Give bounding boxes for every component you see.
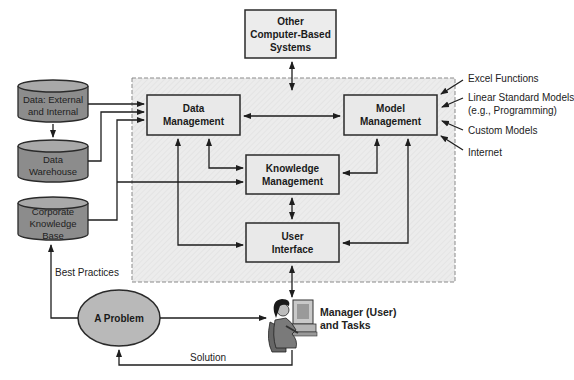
corporate-kb-line1: Corporate (32, 206, 74, 217)
person-at-computer-icon (268, 299, 317, 352)
manager-line2: and Tasks (320, 319, 371, 331)
other-systems-line1: Other (277, 16, 304, 27)
excel-functions-label: Excel Functions (468, 72, 539, 85)
other-systems-line3: Systems (270, 42, 311, 53)
corporate-kb-label: CorporateKnowledgeBase (18, 207, 88, 241)
data-management-line1: Data (183, 103, 205, 114)
linear-models-sub-label: (e.g., Programming) (468, 104, 557, 117)
other-systems-label: OtherComputer-BasedSystems (245, 10, 336, 58)
corporate-kb-line3: Base (42, 230, 64, 241)
data-warehouse-line2: Warehouse (29, 166, 77, 177)
internet-label: Internet (468, 146, 502, 159)
data-warehouse-label: DataWarehouse (18, 152, 88, 180)
model-management-label: ModelManagement (344, 95, 437, 135)
custom-models-label: Custom Models (468, 124, 537, 137)
user-interface-label: UserInterface (246, 223, 339, 262)
data-external-line1: Data: External (23, 94, 83, 105)
knowledge-management-line1: Knowledge (266, 163, 319, 174)
other-systems-line2: Computer-Based (250, 29, 331, 40)
data-external-label: Data: Externaland Internal (18, 92, 88, 120)
manager-line1: Manager (User) (320, 306, 396, 318)
data-management-label: DataManagement (147, 95, 240, 135)
model-management-line1: Model (376, 103, 405, 114)
best-practices-label: Best Practices (55, 266, 119, 279)
model-management-line2: Management (360, 116, 421, 127)
data-external-line2: and Internal (28, 106, 78, 117)
data-warehouse-line1: Data (43, 154, 63, 165)
knowledge-management-label: KnowledgeManagement (246, 155, 339, 194)
manager-label: Manager (User)and Tasks (320, 306, 396, 332)
corporate-kb-line2: Knowledge (29, 218, 76, 229)
problem-text: A Problem (94, 312, 144, 325)
linear-models-label: Linear Standard Models (468, 91, 574, 104)
user-interface-line1: User (281, 231, 303, 242)
solution-label: Solution (190, 351, 226, 364)
user-interface-line2: Interface (272, 244, 314, 255)
knowledge-management-line2: Management (262, 176, 323, 187)
problem-label: A Problem (78, 304, 160, 332)
data-management-line2: Management (163, 116, 224, 127)
